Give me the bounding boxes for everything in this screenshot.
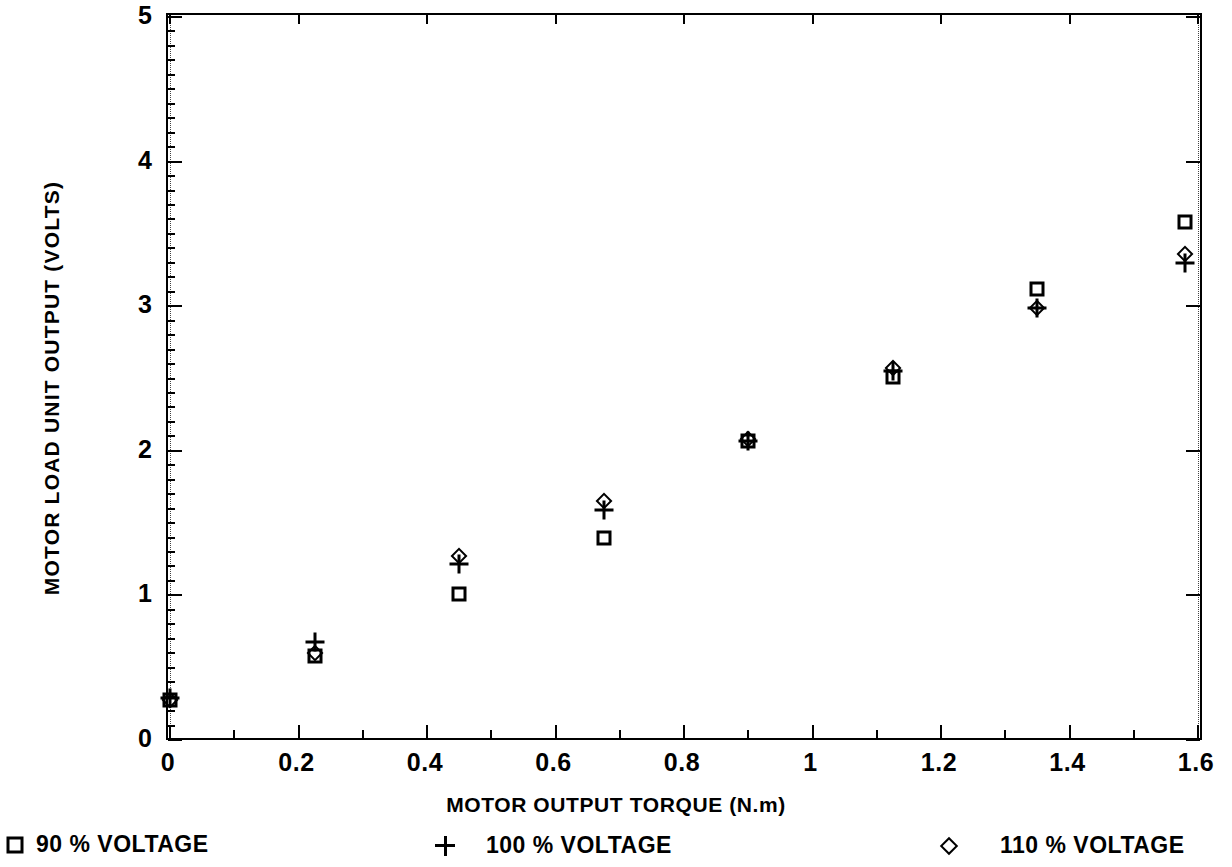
x-tick-top [812,15,814,24]
y-tick-minor [168,247,175,249]
x-tick-major [298,725,300,738]
y-tick-major [168,161,182,163]
y-tick-minor [168,565,175,567]
y-tick-minor [168,334,175,336]
legend-entry-110-voltage: 110 % VOLTAGE [938,832,1185,859]
data-point-plus [739,431,758,450]
y-tick-minor [168,175,175,177]
y-tick-minor [168,30,175,32]
data-point-square [885,370,900,385]
x-tick-label: 1.6 [1178,748,1214,777]
y-tick-major [1186,305,1200,307]
plus-marker-icon [434,835,456,857]
x-tick-top [426,15,428,24]
x-tick-top [555,15,557,24]
legend-label-110-voltage: 110 % VOLTAGE [1000,832,1185,859]
y-tick-minor [168,233,175,235]
x-tick-label: 0 [161,748,175,777]
y-tick-minor [168,204,175,206]
x-tick-label: 1.4 [1049,748,1085,777]
legend-entry-100-voltage: 100 % VOLTAGE [434,832,672,859]
y-tick-minor [168,74,175,76]
x-tick-minor [876,730,878,738]
y-tick-minor [168,537,175,539]
y-tick-major [168,739,182,741]
plot-area [166,13,1202,740]
y-tick-label: 4 [118,145,152,174]
x-tick-top [1069,15,1071,24]
data-point-diamond [1029,299,1046,316]
y-tick-major [168,594,182,596]
y-tick-minor [168,218,175,220]
data-point-square [741,433,756,448]
y-tick-minor [168,435,175,437]
x-tick-major [940,725,942,738]
y-tick-minor [168,464,175,466]
y-tick-minor [168,349,175,351]
x-tick-label: 0.8 [664,748,700,777]
x-tick-label: 0.4 [407,748,443,777]
y-tick-minor [168,117,175,119]
x-tick-top [298,15,300,24]
x-tick-minor [1004,730,1006,738]
y-tick-minor [168,421,175,423]
y-tick-minor [168,103,175,105]
data-point-diamond [1177,246,1194,263]
y-tick-minor [168,146,175,148]
chart-legend: 90 % VOLTAGE 100 % VOLTAGE 110 % VOLTAGE [0,828,1232,867]
y-tick-minor [168,710,175,712]
cropped-chart-title [168,3,1204,14]
legend-entry-90-voltage: 90 % VOLTAGE [4,831,209,858]
x-tick-major [1197,725,1199,738]
x-tick-major [426,725,428,738]
y-tick-minor [168,320,175,322]
y-tick-minor [168,652,175,654]
y-tick-minor [168,479,175,481]
y-tick-minor [168,725,175,727]
data-point-diamond [884,360,901,377]
x-tick-major [1069,725,1071,738]
x-tick-label: 0.2 [278,748,314,777]
legend-label-100-voltage: 100 % VOLTAGE [486,832,672,859]
y-tick-major [1186,594,1200,596]
y-tick-minor [168,190,175,192]
data-point-diamond [451,548,468,565]
data-point-plus [450,554,469,573]
x-tick-label: 0.6 [535,748,571,777]
x-tick-top [940,15,942,24]
y-tick-minor [168,551,175,553]
y-tick-major [1186,16,1200,18]
y-tick-minor [168,363,175,365]
right-inner-rule [1198,15,1199,738]
y-tick-minor [168,696,175,698]
data-point-square [596,530,611,545]
data-point-diamond [306,645,323,662]
x-tick-major [683,725,685,738]
y-tick-minor [168,522,175,524]
x-tick-label: 1 [803,748,817,777]
y-tick-minor [168,276,175,278]
y-tick-minor [168,291,175,293]
x-tick-label: 1.2 [921,748,957,777]
y-tick-minor [168,638,175,640]
y-axis-title: MOTOR LOAD UNIT OUTPUT (VOLTS) [40,108,64,668]
y-tick-minor [168,59,175,61]
y-tick-minor [168,493,175,495]
data-point-square [1178,215,1193,230]
y-tick-minor [168,45,175,47]
y-tick-minor [168,667,175,669]
chart-figure: MOTOR LOAD UNIT OUTPUT (VOLTS) 00.20.40.… [0,0,1232,867]
y-tick-label: 3 [118,290,152,319]
y-tick-minor [168,262,175,264]
y-tick-label: 2 [118,434,152,463]
y-tick-major [1186,739,1200,741]
x-tick-top [683,15,685,24]
left-inner-rule [170,15,171,738]
y-tick-major [168,450,182,452]
data-point-plus [1028,298,1047,317]
y-tick-minor [168,88,175,90]
y-tick-minor [168,609,175,611]
x-tick-major [169,725,171,738]
data-point-plus [594,501,613,520]
data-point-diamond [740,431,757,448]
